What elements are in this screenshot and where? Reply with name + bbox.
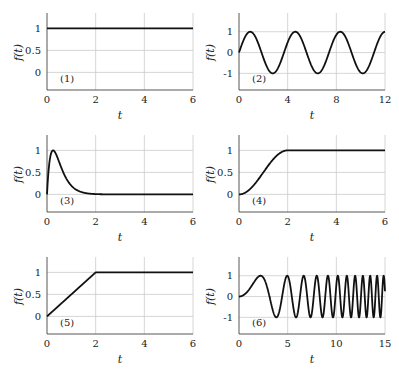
y-tick-label: 0 — [227, 291, 233, 302]
panel-label: (5) — [60, 317, 74, 328]
x-tick-label: 0 — [236, 216, 242, 227]
x-tick-label: 0 — [44, 338, 50, 349]
x-tick-label: 2 — [92, 216, 98, 227]
y-tick-label: 0.5 — [217, 167, 233, 178]
x-tick-label: 2 — [92, 94, 98, 105]
subplot-5: 024600.51tf(t)(5) — [12, 257, 196, 366]
x-tick-label: 4 — [141, 94, 147, 105]
y-axis-label: f(t) — [12, 166, 25, 184]
x-tick-label: 6 — [382, 216, 388, 227]
y-tick-label: 1 — [227, 145, 233, 156]
x-tick-label: 2 — [284, 216, 290, 227]
x-tick-label: 15 — [379, 338, 392, 349]
y-axis-label: f(t) — [204, 166, 217, 184]
y-tick-label: 0 — [35, 311, 41, 322]
x-tick-label: 6 — [190, 216, 196, 227]
x-tick-label: 4 — [141, 338, 147, 349]
x-tick-label: 6 — [190, 338, 196, 349]
x-tick-label: 0 — [44, 216, 50, 227]
x-axis-label: t — [118, 231, 123, 244]
y-tick-label: 1 — [35, 267, 41, 278]
x-tick-label: 4 — [141, 216, 147, 227]
y-axis-label: f(t) — [204, 288, 217, 306]
panel-label: (1) — [60, 73, 74, 84]
x-axis-label: t — [118, 353, 123, 366]
x-tick-label: 6 — [190, 94, 196, 105]
subplot-6: 051015-101tf(t)(6) — [204, 257, 391, 366]
y-axis-label: f(t) — [12, 288, 25, 306]
y-tick-label: 1 — [35, 23, 41, 34]
x-axis-label: t — [118, 109, 123, 122]
y-tick-label: 0 — [227, 189, 233, 200]
subplot-3: 024600.51tf(t)(3) — [12, 135, 196, 244]
figure: 024600.51tf(t)(1)04812-101tf(t)(2)024600… — [0, 0, 399, 370]
x-axis-label: t — [310, 353, 315, 366]
y-tick-label: -1 — [223, 68, 233, 79]
y-tick-label: 0 — [227, 47, 233, 58]
panel-label: (3) — [60, 195, 74, 206]
panel-label: (2) — [252, 73, 266, 84]
x-tick-label: 12 — [379, 94, 392, 105]
panel-label: (6) — [252, 317, 266, 328]
x-axis-label: t — [310, 109, 315, 122]
y-tick-label: 0 — [35, 189, 41, 200]
x-tick-label: 4 — [333, 216, 339, 227]
y-tick-label: 0 — [35, 67, 41, 78]
y-tick-label: -1 — [223, 312, 233, 323]
x-tick-label: 0 — [236, 338, 242, 349]
x-tick-label: 2 — [92, 338, 98, 349]
x-tick-label: 5 — [284, 338, 290, 349]
panel-label: (4) — [252, 195, 266, 206]
y-tick-label: 0.5 — [25, 45, 41, 56]
x-tick-label: 4 — [284, 94, 290, 105]
x-tick-label: 0 — [44, 94, 50, 105]
y-axis-label: f(t) — [12, 44, 25, 62]
y-axis-label: f(t) — [204, 44, 217, 62]
y-tick-label: 0.5 — [25, 289, 41, 300]
x-tick-label: 8 — [333, 94, 339, 105]
subplot-2: 04812-101tf(t)(2) — [204, 13, 391, 122]
x-tick-label: 0 — [236, 94, 242, 105]
y-tick-label: 0.5 — [25, 167, 41, 178]
subplot-1: 024600.51tf(t)(1) — [12, 13, 196, 122]
y-tick-label: 1 — [227, 26, 233, 37]
y-tick-label: 1 — [35, 145, 41, 156]
y-tick-label: 1 — [227, 270, 233, 281]
x-axis-label: t — [310, 231, 315, 244]
x-tick-label: 10 — [330, 338, 343, 349]
subplot-4: 024600.51tf(t)(4) — [204, 135, 388, 244]
